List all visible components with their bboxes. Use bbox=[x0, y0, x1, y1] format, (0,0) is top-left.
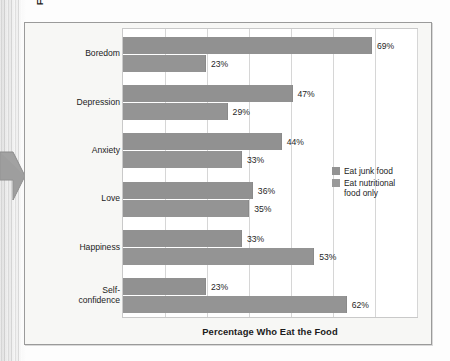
legend-swatch-nutritional-food bbox=[332, 179, 340, 187]
legend-label-junk-food: Eat junk food bbox=[344, 166, 393, 176]
bar-group: 69%23% bbox=[123, 37, 417, 72]
y-tick-line1: Happiness bbox=[79, 242, 120, 252]
legend-item-nutritional-food: Eat nutritionalfood only bbox=[332, 178, 418, 198]
legend-label-nutritional-line1: Eat nutritional bbox=[344, 178, 395, 188]
bar-junk-food[interactable] bbox=[123, 85, 293, 102]
y-tick-line1: Love bbox=[101, 193, 120, 203]
y-tick-line1: Anxiety bbox=[92, 145, 120, 155]
bar-value-label: 69% bbox=[377, 41, 394, 51]
y-tick-label-anxiety: Anxiety bbox=[60, 145, 120, 155]
bar-junk-food[interactable] bbox=[123, 37, 372, 54]
gridline bbox=[249, 29, 250, 317]
bar-value-label: 29% bbox=[233, 107, 250, 117]
bar-value-label: 33% bbox=[247, 234, 264, 244]
bar-value-label: 35% bbox=[254, 204, 271, 214]
y-tick-label-depression: Depression bbox=[60, 97, 120, 107]
bar-value-label: 23% bbox=[211, 59, 228, 69]
bar-junk-food[interactable] bbox=[123, 278, 206, 295]
bar-junk-food[interactable] bbox=[123, 230, 242, 247]
gridline bbox=[291, 29, 292, 317]
y-axis-title-text: Feeling That Triggers Eating bbox=[34, 0, 45, 60]
bar-nutritional-food[interactable] bbox=[123, 296, 347, 313]
bar-value-label: 62% bbox=[352, 300, 369, 310]
bar-nutritional-food[interactable] bbox=[123, 200, 249, 217]
y-tick-label-boredom: Boredom bbox=[60, 48, 120, 58]
bar-nutritional-food[interactable] bbox=[123, 151, 242, 168]
pointer-arrow-icon bbox=[0, 150, 26, 202]
plot-wrapper: Boredom Depression Anxiety Love Happines… bbox=[60, 28, 418, 318]
legend-label-nutritional-line2: food only bbox=[344, 188, 378, 198]
bar-junk-food[interactable] bbox=[123, 133, 282, 150]
bar-group: 44%33% bbox=[123, 133, 417, 168]
legend-item-junk-food: Eat junk food bbox=[332, 166, 418, 176]
bar-value-label: 33% bbox=[247, 155, 264, 165]
bar-junk-food[interactable] bbox=[123, 182, 253, 199]
bar-value-label: 47% bbox=[298, 89, 315, 99]
gridline bbox=[165, 29, 166, 317]
bar-group: 23%62% bbox=[123, 278, 417, 313]
y-tick-label-love: Love bbox=[60, 193, 120, 203]
gridline bbox=[207, 29, 208, 317]
x-axis-title: Percentage Who Eat the Food bbox=[122, 326, 418, 337]
bar-nutritional-food[interactable] bbox=[123, 55, 206, 72]
chart-legend: Eat junk food Eat nutritionalfood only bbox=[332, 166, 418, 200]
y-tick-line1: Boredom bbox=[85, 48, 120, 58]
y-tick-label-self-confidence: Self-confidence bbox=[60, 285, 120, 305]
bar-value-label: 53% bbox=[319, 252, 336, 262]
y-tick-line1: Depression bbox=[77, 97, 120, 107]
bar-value-label: 44% bbox=[287, 137, 304, 147]
legend-swatch-junk-food bbox=[332, 167, 340, 175]
y-axis-tick-labels: Boredom Depression Anxiety Love Happines… bbox=[60, 28, 122, 318]
bar-group: 47%29% bbox=[123, 85, 417, 120]
y-tick-line1: Self- bbox=[102, 285, 120, 295]
screenshot-stage: Feeling That Triggers Eating Boredom Dep… bbox=[0, 0, 450, 361]
bar-nutritional-food[interactable] bbox=[123, 103, 228, 120]
bar-nutritional-food[interactable] bbox=[123, 248, 314, 265]
bar-value-label: 36% bbox=[258, 186, 275, 196]
y-tick-line2: confidence bbox=[78, 295, 120, 305]
bar-value-label: 23% bbox=[211, 282, 228, 292]
bar-group: 33%53% bbox=[123, 230, 417, 265]
legend-label-nutritional-food: Eat nutritionalfood only bbox=[344, 178, 395, 198]
y-axis-title: Feeling That Triggers Eating bbox=[34, 0, 50, 60]
y-tick-label-happiness: Happiness bbox=[60, 242, 120, 252]
